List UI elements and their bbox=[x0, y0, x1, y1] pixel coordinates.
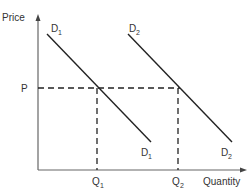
svg-text:Q: Q bbox=[172, 176, 180, 187]
y-axis-label: Price bbox=[2, 12, 25, 23]
q2-label: Q 2 bbox=[172, 176, 184, 189]
q1-label: Q 1 bbox=[92, 176, 104, 189]
x-axis-label: Quantity bbox=[203, 176, 240, 187]
d2-label-top: D 2 bbox=[129, 23, 140, 36]
d1-label-bottom: D 1 bbox=[141, 147, 152, 160]
d1-label-top: D 1 bbox=[51, 23, 62, 36]
svg-text:1: 1 bbox=[100, 182, 104, 189]
y-axis-arrow-icon bbox=[36, 14, 41, 21]
svg-text:2: 2 bbox=[228, 153, 232, 160]
price-label: P bbox=[21, 83, 28, 94]
x-axis-arrow-icon bbox=[240, 168, 247, 173]
svg-text:2: 2 bbox=[180, 182, 184, 189]
svg-text:2: 2 bbox=[136, 29, 140, 36]
d2-label-bottom: D 2 bbox=[221, 147, 232, 160]
svg-text:1: 1 bbox=[148, 153, 152, 160]
svg-text:Q: Q bbox=[92, 176, 100, 187]
svg-text:1: 1 bbox=[58, 29, 62, 36]
demand-shift-diagram: Price Quantity P D 1 D 1 D 2 D 2 Q 1 Q 2 bbox=[0, 0, 251, 194]
